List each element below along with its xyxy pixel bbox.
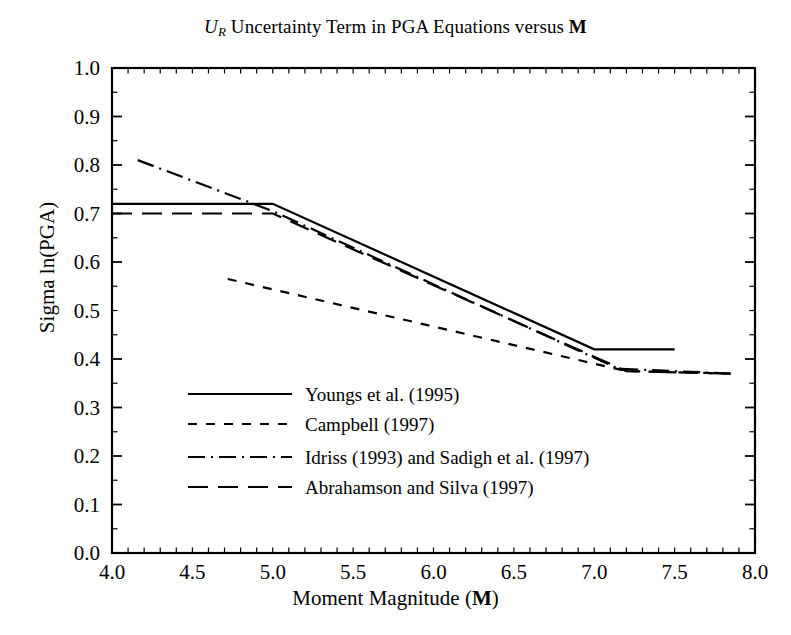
legend-label: Abrahamson and Silva (1997)	[305, 477, 533, 499]
y-tick-label: 0.5	[74, 299, 100, 323]
x-tick-label: 6.5	[501, 560, 527, 584]
x-tick-label: 7.0	[581, 560, 607, 584]
legend-label: Campbell (1997)	[305, 414, 434, 436]
figure: UR Uncertainty Term in PGA Equations ver…	[0, 0, 791, 635]
y-tick-label: 0.0	[74, 541, 100, 565]
y-tick-label: 0.2	[74, 444, 100, 468]
series-line	[228, 279, 731, 374]
y-tick-label: 0.6	[74, 250, 100, 274]
x-tick-label: 4.5	[179, 560, 205, 584]
series-line	[112, 204, 675, 349]
x-tick-label: 6.0	[420, 560, 446, 584]
x-tick-label: 4.0	[99, 560, 125, 584]
x-tick-label: 7.5	[662, 560, 688, 584]
y-tick-label: 0.4	[74, 347, 101, 371]
plot-area: 4.04.55.05.56.06.57.07.58.00.00.10.20.30…	[0, 0, 791, 635]
y-tick-label: 0.9	[74, 105, 100, 129]
x-tick-label: 8.0	[742, 560, 768, 584]
legend-label: Youngs et al. (1995)	[305, 384, 459, 406]
series-line	[138, 160, 731, 373]
y-tick-label: 1.0	[74, 56, 100, 80]
y-tick-label: 0.8	[74, 153, 100, 177]
legend-label: Idriss (1993) and Sadigh et al. (1997)	[305, 447, 589, 469]
y-tick-label: 0.3	[74, 396, 100, 420]
y-tick-label: 0.1	[74, 493, 100, 517]
x-tick-label: 5.5	[340, 560, 366, 584]
x-tick-label: 5.0	[260, 560, 286, 584]
y-tick-label: 0.7	[74, 202, 100, 226]
